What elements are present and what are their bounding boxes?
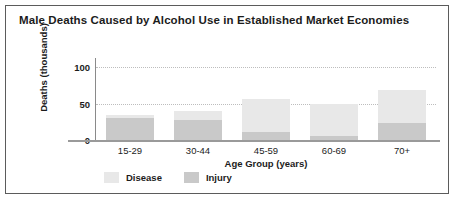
y-tick-50: 50	[50, 98, 90, 109]
bar-segment-injury	[106, 118, 154, 140]
x-tick-30-44: 30-44	[174, 145, 222, 156]
bar-segment-injury	[310, 136, 358, 140]
bar-segment-disease	[242, 99, 290, 132]
legend-swatch-icon	[104, 172, 119, 183]
legend-label: Disease	[126, 172, 162, 183]
chart-container: Male Deaths Caused by Alcohol Use in Est…	[5, 5, 449, 194]
x-axis-line	[68, 140, 440, 142]
x-axis-label: Age Group (years)	[96, 158, 436, 169]
bar-segment-injury	[242, 132, 290, 140]
chart-legend: DiseaseInjury	[104, 172, 232, 183]
bar-segment-injury	[174, 120, 222, 140]
y-tick-100: 100	[50, 62, 90, 73]
bars-group	[96, 60, 436, 140]
legend-item-disease[interactable]: Disease	[104, 172, 162, 183]
legend-swatch-icon	[184, 172, 199, 183]
bar-70+[interactable]	[378, 90, 426, 140]
chart-title: Male Deaths Caused by Alcohol Use in Est…	[19, 14, 409, 26]
bar-segment-disease	[378, 90, 426, 123]
bar-segment-disease	[310, 104, 358, 137]
legend-item-injury[interactable]: Injury	[184, 172, 232, 183]
x-tick-45-59: 45-59	[242, 145, 290, 156]
x-tick-15-29: 15-29	[106, 145, 154, 156]
x-tick-70+: 70+	[378, 145, 426, 156]
bar-segment-injury	[378, 123, 426, 140]
x-axis-ticks: 15-2930-4445-5960-6970+	[96, 145, 436, 159]
bar-60-69[interactable]	[310, 104, 358, 140]
bar-45-59[interactable]	[242, 99, 290, 140]
bar-segment-disease	[174, 111, 222, 120]
x-tick-60-69: 60-69	[310, 145, 358, 156]
legend-label: Injury	[206, 172, 232, 183]
bar-15-29[interactable]	[106, 115, 154, 140]
y-axis-ticks: 0 50 100	[46, 60, 90, 140]
bar-30-44[interactable]	[174, 111, 222, 140]
plot-area	[96, 60, 436, 140]
